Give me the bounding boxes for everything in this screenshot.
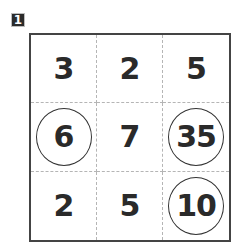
grid-cell-r1c3: 5 [163,35,229,103]
problem-number-badge: 1 [11,13,25,27]
grid-cell-r2c1: 6 [31,103,97,171]
cell-number: 35 [176,119,216,154]
grid-cell-r1c2: 2 [97,35,163,103]
grid-cell-r2c2: 7 [97,103,163,171]
cell-number: 7 [120,119,140,154]
cell-number: 2 [120,51,140,86]
cell-number: 5 [120,188,140,223]
number-grid: 3 2 5 6 7 35 2 5 10 [29,33,231,242]
grid-cell-r3c2: 5 [97,172,163,240]
cell-number: 10 [176,188,216,223]
cell-number: 3 [54,51,74,86]
grid-cell-r3c3: 10 [163,172,229,240]
grid-cell-r3c1: 2 [31,172,97,240]
grid-cell-r2c3: 35 [163,103,229,171]
cell-number: 2 [54,188,74,223]
grid-cell-r1c1: 3 [31,35,97,103]
cell-number: 6 [54,119,74,154]
cell-number: 5 [186,51,206,86]
